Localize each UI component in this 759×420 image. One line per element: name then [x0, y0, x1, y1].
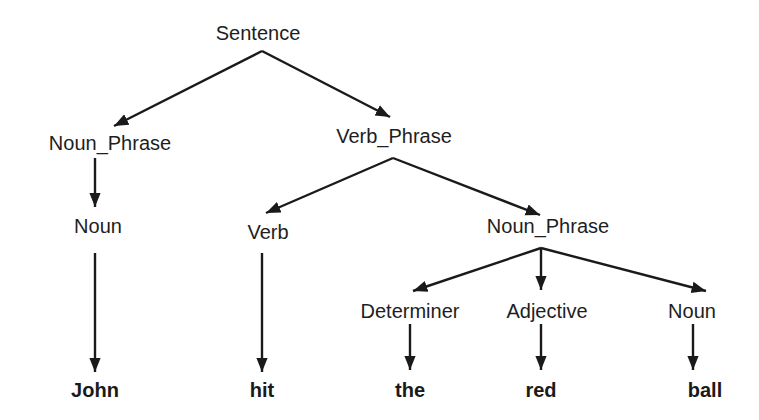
node-noun-phrase-subject: Noun_Phrase [49, 133, 171, 153]
leaf-ball: ball [688, 380, 722, 400]
node-sentence: Sentence [216, 23, 301, 43]
node-noun-object: Noun [668, 301, 716, 321]
leaf-john: John [71, 380, 119, 400]
node-verb-phrase: Verb_Phrase [336, 126, 452, 146]
node-noun-subject: Noun [74, 216, 122, 236]
edge-noun-phrase-determiner [413, 248, 541, 291]
leaf-red: red [525, 380, 556, 400]
edge-verb-phrase-noun-phrase [393, 158, 540, 215]
node-determiner: Determiner [361, 301, 460, 321]
node-verb: Verb [247, 222, 288, 242]
node-noun-phrase-object: Noun_Phrase [487, 216, 609, 236]
edge-sentence-verb-phrase [262, 51, 390, 117]
node-adjective: Adjective [506, 301, 587, 321]
leaf-hit: hit [250, 380, 274, 400]
leaf-the: the [395, 380, 425, 400]
tree-edges [0, 0, 759, 420]
edge-noun-phrase-noun-object [541, 248, 706, 291]
edge-verb-phrase-verb [266, 158, 393, 213]
edge-sentence-noun-phrase [114, 51, 262, 126]
